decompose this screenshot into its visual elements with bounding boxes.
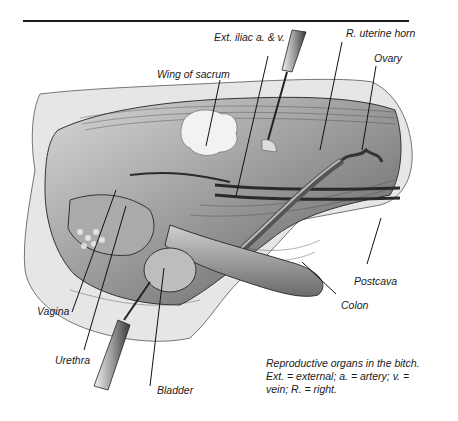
label-urethra: Urethra	[55, 354, 90, 366]
label-ext-iliac: Ext. iliac a. & v.	[214, 31, 285, 43]
label-wing-of-sacrum: Wing of sacrum	[157, 68, 230, 80]
caption-line-1: Reproductive organs in the bitch.	[266, 357, 438, 370]
bladder	[144, 248, 196, 292]
figure-caption: Reproductive organs in the bitch. Ext. =…	[266, 357, 438, 396]
caption-line-2: Ext. = external; a. = artery; v. =	[266, 370, 438, 383]
label-postcava: Postcava	[354, 275, 397, 287]
caption-line-3: vein; R. = right.	[266, 383, 438, 396]
label-vagina: Vagina	[37, 305, 69, 317]
label-colon: Colon	[341, 299, 368, 311]
label-bladder: Bladder	[157, 384, 193, 396]
label-ovary: Ovary	[374, 52, 402, 64]
label-uterine-horn: R. uterine horn	[346, 27, 415, 39]
